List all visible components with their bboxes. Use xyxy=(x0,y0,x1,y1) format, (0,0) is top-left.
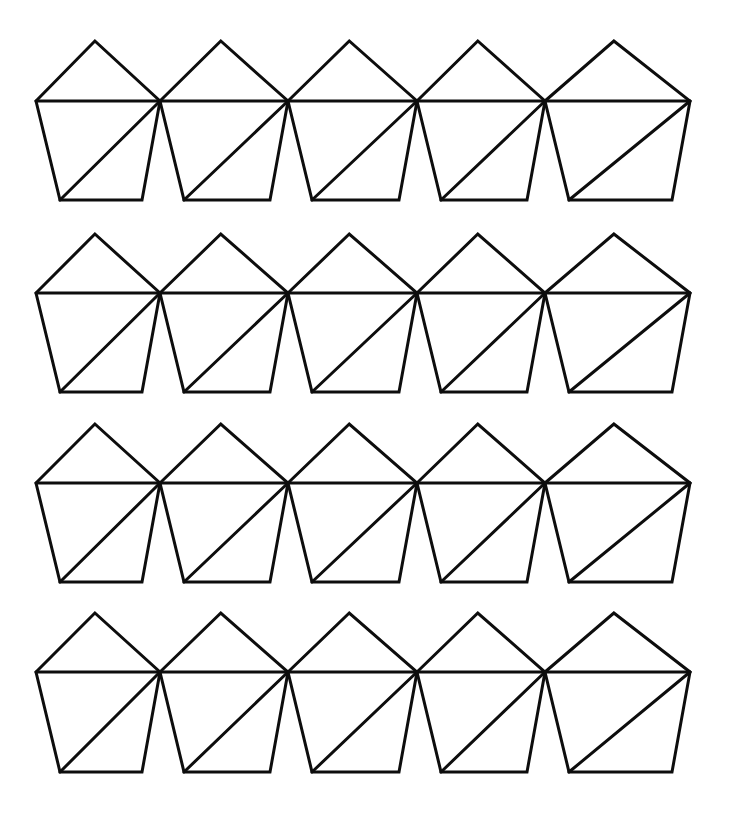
pentagon-outline xyxy=(545,613,690,772)
pentagon-row xyxy=(36,41,690,200)
pentagon-cell xyxy=(36,234,160,392)
pentagon-row xyxy=(36,424,690,582)
pentagon-cell xyxy=(545,613,690,772)
pentagon-row xyxy=(36,613,690,772)
pentagon-row xyxy=(36,234,690,392)
pentagon-cell xyxy=(160,234,288,392)
pentagon-cell xyxy=(288,41,417,200)
pentagon-diagonal-fold xyxy=(569,483,690,582)
pentagon-cell xyxy=(288,424,417,582)
pentagon-cell xyxy=(288,234,417,392)
pentagon-cell xyxy=(417,613,545,772)
pentagon-cell xyxy=(36,424,160,582)
pentagon-cell xyxy=(417,424,545,582)
pentagon-cell xyxy=(545,424,690,582)
pentagon-cell xyxy=(288,613,417,772)
pentagon-cell xyxy=(36,613,160,772)
pentagon-cell xyxy=(160,424,288,582)
pentagon-diagonal-fold xyxy=(569,293,690,392)
pentagon-outline xyxy=(288,613,417,772)
figure-canvas xyxy=(0,0,729,815)
pentagon-cell xyxy=(160,41,288,200)
pentagon-cell xyxy=(417,41,545,200)
pentagon-outline xyxy=(545,234,690,392)
pentagon-diagonal-fold xyxy=(569,672,690,772)
pentagon-cell xyxy=(545,234,690,392)
pentagon-net-group xyxy=(36,41,690,772)
pentagon-diagonal-fold xyxy=(569,101,690,200)
pentagon-cell xyxy=(160,613,288,772)
pentagon-cell xyxy=(417,234,545,392)
pentagon-cell xyxy=(545,41,690,200)
pentagon-net-diagram xyxy=(0,0,729,815)
pentagon-cell xyxy=(36,41,160,200)
pentagon-outline xyxy=(545,424,690,582)
